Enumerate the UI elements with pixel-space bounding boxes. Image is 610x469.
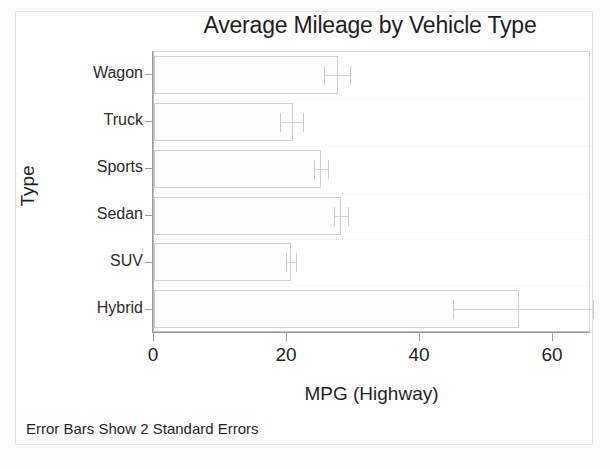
error-bar-cap-high [303,113,304,132]
error-bar-cap-low [314,160,315,179]
error-bar-cap-low [453,300,454,319]
error-bar-cap-high [328,160,329,179]
error-bar-cap-high [350,66,351,85]
y-axis-title: Type [17,136,39,236]
error-bar-line [334,216,349,217]
y-tick-label-wagon: Wagon [11,64,143,82]
error-bar-cap-low [324,66,325,85]
error-bar-cap-low [280,113,281,132]
x-tick-label-20: 20 [256,344,316,366]
y-tick-truck [145,121,153,122]
chart-page: Average Mileage by Vehicle Type WagonTru… [0,0,610,469]
error-bar-cap-high [348,207,349,226]
x-axis-title: MPG (Highway) [153,383,590,405]
x-axis-line [152,332,590,333]
bar-row[interactable] [154,286,591,333]
error-bar-line [286,262,297,263]
error-bar-line [314,169,328,170]
x-tick-60 [552,333,553,341]
y-tick-label-hybrid: Hybrid [11,299,143,317]
y-tick-hybrid [145,309,153,310]
y-tick-suv [145,262,153,263]
error-bar-cap-high [296,253,297,272]
bar-row[interactable] [154,193,591,240]
x-tick-0 [153,333,154,341]
chart-title: Average Mileage by Vehicle Type [150,12,590,39]
x-tick-label-40: 40 [389,344,449,366]
bar-truck[interactable] [154,103,293,141]
bar-row[interactable] [154,99,591,146]
y-tick-sports [145,168,153,169]
y-tick-sedan [145,215,153,216]
bar-sedan[interactable] [154,197,341,235]
bar-row[interactable] [154,146,591,193]
error-bar-line [280,122,303,123]
x-tick-40 [419,333,420,341]
x-tick-20 [286,333,287,341]
error-bar-line [324,75,350,76]
bar-suv[interactable] [154,243,291,281]
y-tick-wagon [145,74,153,75]
bar-sports[interactable] [154,150,321,188]
plot-area-frame [153,51,590,332]
error-bar-cap-low [286,253,287,272]
error-bar-footnote: Error Bars Show 2 Standard Errors [26,420,259,437]
error-bar-line [453,309,593,310]
error-bar-cap-high [593,300,594,319]
y-tick-label-truck: Truck [11,111,143,129]
error-bar-cap-low [334,207,335,226]
bar-wagon[interactable] [154,56,338,94]
y-axis-line [152,51,153,333]
x-tick-label-60: 60 [522,344,582,366]
x-tick-label-0: 0 [123,344,183,366]
y-tick-label-suv: SUV [11,252,143,270]
bar-row[interactable] [154,239,591,286]
band-separator [154,333,591,335]
bar-row[interactable] [154,52,591,99]
